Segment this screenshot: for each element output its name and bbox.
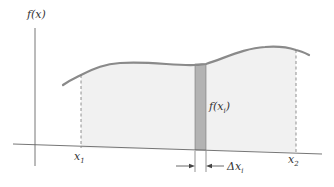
- delta-arrowhead-right: [206, 164, 212, 168]
- x2-label: x2: [288, 153, 299, 168]
- y-axis-label: f(x): [26, 8, 46, 21]
- strip-width-label: Δxi: [226, 160, 243, 175]
- x1-label: x1: [74, 150, 85, 165]
- riemann-diagram: f(x) x1 x2 f(xi) Δxi: [0, 0, 334, 187]
- strip-rectangle: [195, 64, 206, 150]
- strip-height-label: f(xi): [208, 100, 230, 115]
- area-under-curve: [81, 47, 296, 152]
- delta-arrowhead-left: [189, 164, 195, 168]
